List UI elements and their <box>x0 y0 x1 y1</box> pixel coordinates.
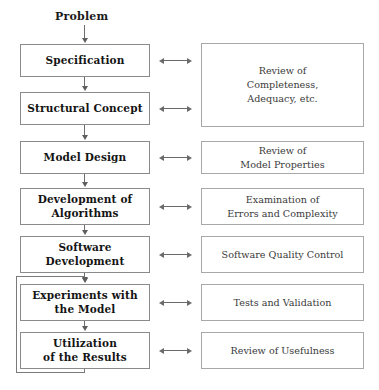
process-label-structural-concept: Structural Concept <box>23 102 146 116</box>
process-box-development-of-algorithms[interactable]: Development of Algorithms <box>20 188 150 225</box>
review-label-review-of-usefulness: Review of Usefulness <box>225 344 341 358</box>
process-box-utilization-of-the-results[interactable]: Utilization of the Results <box>20 332 150 369</box>
bidirectional-arrow-icon-utilization-of-the-results <box>159 346 192 355</box>
arrow-right-tip-icon <box>187 252 192 258</box>
review-box-review-model-properties[interactable]: Review of Model Properties <box>201 141 364 174</box>
process-box-model-design[interactable]: Model Design <box>20 141 150 174</box>
flowchart-diagram: Problem Specification Structural Concept… <box>0 0 379 390</box>
feedback-loop-arrowhead <box>82 277 88 282</box>
connector-problem-to-specification-line <box>84 25 85 39</box>
connector-experiments-to-utilization-arrowhead <box>82 326 88 331</box>
arrow-right-tip-icon <box>187 348 192 354</box>
review-box-review-of-usefulness[interactable]: Review of Usefulness <box>201 332 364 369</box>
connector-development-of-algorithms-to-software-development-arrowhead <box>82 230 88 235</box>
arrow-shaft <box>164 108 187 109</box>
arrow-right-tip-icon <box>187 300 192 306</box>
review-box-software-quality-control[interactable]: Software Quality Control <box>201 236 364 273</box>
process-box-software-development[interactable]: Software Development <box>20 236 150 273</box>
bidirectional-arrow-icon-development-of-algorithms <box>159 202 192 211</box>
review-box-review-completeness[interactable]: Review of Completeness, Adequacy, etc. <box>201 43 364 127</box>
bidirectional-arrow-icon-model-design <box>159 153 192 162</box>
review-label-software-quality-control: Software Quality Control <box>216 248 350 262</box>
process-label-specification: Specification <box>41 54 128 68</box>
review-label-review-completeness: Review of Completeness, Adequacy, etc. <box>241 64 324 106</box>
process-box-structural-concept[interactable]: Structural Concept <box>20 92 150 125</box>
review-label-tests-and-validation: Tests and Validation <box>228 296 338 310</box>
process-label-utilization-of-the-results: Utilization of the Results <box>39 337 131 365</box>
review-label-examination-errors: Examination of Errors and Complexity <box>221 193 343 221</box>
feedback-loop-bottom-segment <box>16 372 85 373</box>
bidirectional-arrow-icon-experiments-with-the-model <box>159 298 192 307</box>
process-box-experiments-with-the-model[interactable]: Experiments with the Model <box>20 284 150 321</box>
review-label-review-model-properties: Review of Model Properties <box>234 144 330 172</box>
process-label-software-development: Software Development <box>42 241 129 269</box>
bidirectional-arrow-icon-software-development <box>159 250 192 259</box>
connector-problem-to-specification-arrowhead <box>82 38 88 43</box>
process-label-experiments-with-the-model: Experiments with the Model <box>28 289 142 317</box>
arrow-right-tip-icon <box>187 155 192 161</box>
review-box-tests-and-validation[interactable]: Tests and Validation <box>201 284 364 321</box>
arrow-shaft <box>164 60 187 61</box>
connector-specification-to-structural-concept-arrowhead <box>82 86 88 91</box>
connector-structural-concept-to-model-design-arrowhead <box>82 135 88 140</box>
bidirectional-arrow-icon-structural-concept <box>159 104 192 113</box>
arrow-shaft <box>164 302 187 303</box>
arrow-right-tip-icon <box>187 58 192 64</box>
process-label-development-of-algorithms: Development of Algorithms <box>34 193 136 221</box>
connector-model-design-to-development-of-algorithms-arrowhead <box>82 182 88 187</box>
review-box-examination-errors[interactable]: Examination of Errors and Complexity <box>201 188 364 225</box>
arrow-shaft <box>164 157 187 158</box>
arrow-shaft <box>164 350 187 351</box>
arrow-right-tip-icon <box>187 204 192 210</box>
arrow-shaft <box>164 206 187 207</box>
entry-label-problem: Problem <box>55 10 108 23</box>
feedback-loop-top-segment <box>16 276 85 277</box>
feedback-loop-left-segment <box>16 276 17 373</box>
arrow-right-tip-icon <box>187 106 192 112</box>
arrow-shaft <box>164 254 187 255</box>
bidirectional-arrow-icon-specification <box>159 56 192 65</box>
process-box-specification[interactable]: Specification <box>20 44 150 77</box>
process-label-model-design: Model Design <box>40 151 131 165</box>
